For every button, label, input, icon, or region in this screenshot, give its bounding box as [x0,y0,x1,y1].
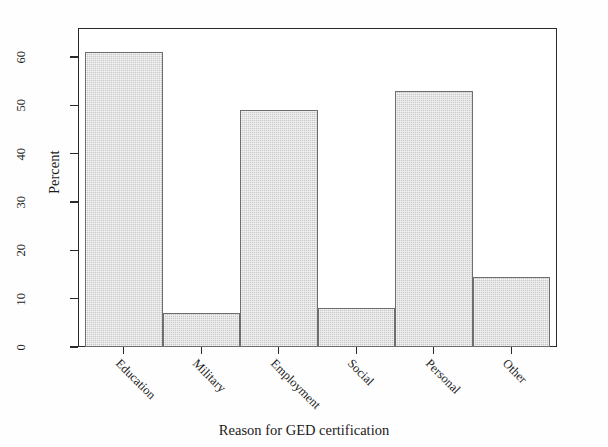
x-tick-mark [356,347,357,354]
y-tick-label: 10 [15,284,28,314]
x-tick-mark [278,347,279,354]
x-tick-label-personal: Personal [423,357,462,396]
x-tick-label-military: Military [190,357,228,395]
y-axis-title: Percent [47,112,62,232]
y-tick-mark [70,105,78,106]
bars-layer [85,28,550,347]
y-tick-label: 40 [15,139,28,169]
y-tick-mark [70,56,78,57]
x-tick-mark [511,347,512,354]
y-tick-label: 0 [15,332,28,362]
bar-chart-figure: 0102030405060 Percent EducationMilitaryE… [0,0,608,447]
bar-military [163,313,241,347]
y-tick-mark [70,346,78,347]
x-tick-mark [123,347,124,354]
x-axis-title: Reason for GED certification [0,423,608,438]
bar-social [318,308,396,347]
y-tick-mark [70,298,78,299]
x-tick-label-employment: Employment [268,357,323,412]
x-tick-label-education: Education [113,357,158,402]
y-tick-label: 30 [15,187,28,217]
x-tick-label-other: Other [500,357,529,386]
bar-employment [240,110,318,347]
y-tick-label: 50 [15,91,28,121]
x-tick-mark [433,347,434,354]
y-tick-label: 20 [15,236,28,266]
y-tick-label: 60 [15,42,28,72]
y-axis: 0102030405060 [0,0,80,447]
y-tick-mark [70,153,78,154]
y-tick-mark [70,250,78,251]
bar-other [473,277,551,347]
bar-personal [395,91,473,347]
bar-education [85,52,163,347]
x-tick-mark [201,347,202,354]
y-tick-mark [70,201,78,202]
x-tick-label-social: Social [345,357,376,388]
